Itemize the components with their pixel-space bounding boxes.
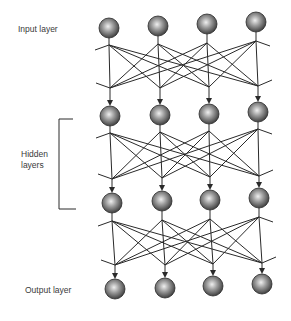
edge-stub-left xyxy=(96,133,110,138)
weight-edge xyxy=(160,43,207,88)
hidden-layers-bracket xyxy=(59,119,76,209)
connections xyxy=(95,32,276,276)
output-layer-node-2 xyxy=(155,278,175,298)
output-layer-label: Output layer xyxy=(25,285,71,296)
weight-edge xyxy=(109,45,110,88)
weight-edge xyxy=(165,219,210,265)
weight-edge xyxy=(112,221,115,265)
weight-edge xyxy=(115,220,162,265)
hidden-layer-2-node-4 xyxy=(249,188,269,208)
input-layer-node-2 xyxy=(148,16,168,36)
weight-edge xyxy=(110,44,158,88)
edge-stub-right xyxy=(256,41,270,46)
hidden-layer-1-node-1 xyxy=(100,106,120,126)
edge-stub-left xyxy=(98,174,112,179)
input-layer-node-1 xyxy=(99,18,119,38)
hidden-layer-2-node-3 xyxy=(200,190,220,210)
edge-stub-right xyxy=(262,257,276,263)
edge-stub-right xyxy=(258,80,272,86)
hidden-layer-1-node-4 xyxy=(248,102,268,122)
output-layer-node-1 xyxy=(105,279,125,299)
output-layer-node-4 xyxy=(252,274,272,294)
edge-stub-right xyxy=(258,129,272,134)
edge-stub-left xyxy=(96,83,110,88)
output-layer-node-3 xyxy=(203,276,223,296)
hidden-layer-2-node-2 xyxy=(152,191,172,211)
weight-edge xyxy=(209,41,256,87)
weight-edge xyxy=(160,41,256,88)
input-layer-node-4 xyxy=(246,12,266,32)
hidden-layer-1-node-3 xyxy=(199,104,219,124)
neural-network-diagram: Input layer Hidden layers Output layer xyxy=(0,0,291,321)
hidden-layers-label: Hidden layers xyxy=(21,149,48,171)
weight-edge xyxy=(110,133,112,179)
weight-edge xyxy=(210,129,258,177)
weight-edge xyxy=(162,131,209,178)
edge-stub-right xyxy=(259,170,273,176)
input-layer-label: Input layer xyxy=(18,24,58,35)
input-layer-node-3 xyxy=(197,14,217,34)
weight-edge xyxy=(112,132,160,179)
edge-stub-left xyxy=(101,260,115,265)
weight-edge xyxy=(258,129,259,176)
hidden-layer-1-node-2 xyxy=(150,105,170,125)
weight-edge xyxy=(259,217,262,263)
weight-edge xyxy=(213,217,259,264)
hidden-layer-2-node-1 xyxy=(102,193,122,213)
weight-edge xyxy=(256,41,258,86)
edge-stub-right xyxy=(259,217,273,222)
edge-stub-left xyxy=(95,45,109,50)
edge-stub-left xyxy=(98,221,112,226)
